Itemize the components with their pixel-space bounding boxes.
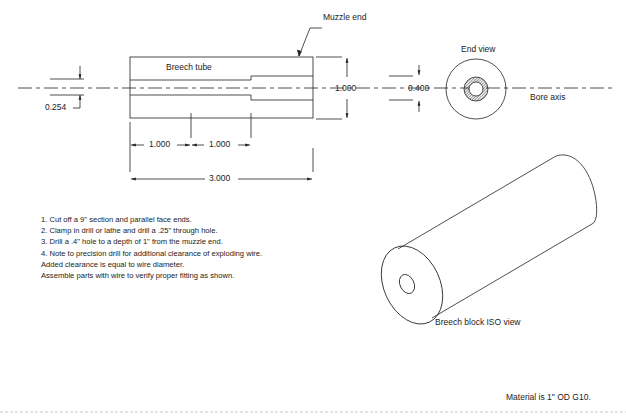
drawing-canvas bbox=[0, 0, 626, 419]
total-length-value: 3.000 bbox=[208, 174, 231, 183]
end-view bbox=[446, 59, 506, 119]
muzzle-end-leader bbox=[299, 28, 322, 56]
outer-diameter-value: 1.000 bbox=[334, 84, 357, 93]
material-label: Material is 1" OD G10. bbox=[506, 393, 591, 402]
seg2-length-value: 1.000 bbox=[208, 140, 231, 149]
note-line: 3. Drill a .4" hole to a depth of 1" fro… bbox=[41, 236, 262, 247]
breech-tube-side-view bbox=[130, 57, 313, 118]
note-line: 2. Clamp in drill or lathe and drill a .… bbox=[41, 225, 262, 236]
end-view-label: End view bbox=[461, 45, 496, 54]
note-line: 1. Cut off a 9" section and parallel fac… bbox=[41, 214, 262, 225]
breech-block-iso-view bbox=[369, 155, 596, 334]
bore-diameter-value: 0.254 bbox=[44, 103, 67, 112]
bore-axis-label: Bore axis bbox=[530, 93, 565, 102]
seg1-length-value: 1.000 bbox=[148, 140, 171, 149]
note-line: Added clearance is equal to wire diamete… bbox=[41, 259, 262, 270]
iso-view-label: Breech block ISO view bbox=[435, 318, 521, 327]
note-line: 4. Note to precision drill for additiona… bbox=[41, 248, 262, 259]
counterbore-diameter-value: 0.400 bbox=[407, 84, 430, 93]
muzzle-end-label: Muzzle end bbox=[323, 13, 366, 22]
fabrication-notes: 1. Cut off a 9" section and parallel fac… bbox=[41, 214, 262, 281]
note-line: Assemble parts with wire to verify prope… bbox=[41, 270, 262, 281]
breech-tube-label: Breech tube bbox=[166, 63, 212, 72]
